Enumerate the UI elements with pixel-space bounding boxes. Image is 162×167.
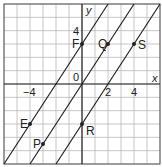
point-p bbox=[41, 142, 45, 146]
point-label-f: F bbox=[72, 37, 79, 51]
x-tick-label: −4 bbox=[23, 86, 36, 98]
point-label-e: E bbox=[20, 117, 28, 131]
x-axis-label: x bbox=[151, 72, 158, 84]
y-tick-label: 4 bbox=[73, 25, 79, 37]
point-r bbox=[80, 122, 84, 126]
x-tick-label: 4 bbox=[131, 86, 137, 98]
point-label-p: P bbox=[33, 137, 41, 151]
point-label-r: R bbox=[86, 124, 95, 138]
coordinate-plane: xy0−4244FQSERP bbox=[0, 0, 162, 167]
point-s bbox=[132, 42, 136, 46]
x-tick-label: 2 bbox=[105, 86, 111, 98]
point-label-s: S bbox=[138, 38, 146, 52]
labels: xy0−4244FQSERP bbox=[20, 4, 158, 151]
y-axis-label: y bbox=[85, 4, 93, 16]
origin-label: 0 bbox=[73, 71, 79, 83]
point-e bbox=[28, 122, 32, 126]
point-f bbox=[80, 42, 84, 46]
point-label-q: Q bbox=[98, 37, 107, 51]
